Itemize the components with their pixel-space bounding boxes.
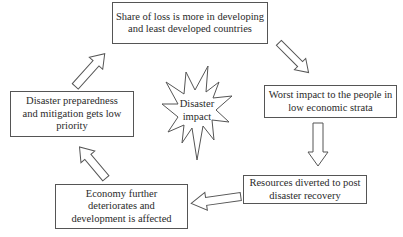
node-text-line: disaster recovery (249, 190, 360, 203)
center-label-line-1: Disaster (170, 98, 224, 111)
center-label: Disaster impact (170, 98, 224, 123)
node-text-line: Economy further (71, 188, 171, 201)
node-text-line: Worst impact to the people in (269, 89, 393, 102)
node-text-line: priority (23, 120, 122, 133)
node-preparedness-low: Disaster preparedness and mitigation get… (10, 91, 134, 137)
node-economy-deteriorates: Economy further deteriorates and develop… (55, 184, 188, 229)
node-text-line: and mitigation gets low (23, 108, 122, 121)
node-text-line: deteriorates and (71, 200, 171, 213)
node-text-line: and least developed countries (116, 23, 264, 36)
node-text-line: Disaster preparedness (23, 95, 122, 108)
arrow-share-to-worst (273, 37, 314, 78)
arrow-worst-to-resources (308, 123, 328, 166)
node-worst-impact: Worst impact to the people in low econom… (264, 85, 397, 118)
node-text-line: low economic strata (269, 102, 393, 115)
node-share-of-loss: Share of loss is more in developing and … (112, 2, 268, 44)
node-text-line: development is affected (71, 213, 171, 226)
center-label-line-2: impact (170, 111, 224, 124)
node-text-line: Share of loss is more in developing (116, 11, 264, 24)
node-text-line: Resources diverted to post (249, 177, 360, 190)
node-resources-diverted: Resources diverted to post disaster reco… (243, 175, 367, 204)
arrow-preparedness-to-share (69, 48, 112, 93)
arrow-economy-to-preparedness (73, 141, 113, 184)
arrow-resources-to-economy (190, 188, 242, 213)
